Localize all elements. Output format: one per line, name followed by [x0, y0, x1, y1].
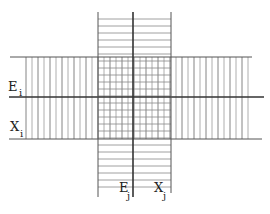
label-Ej-subscript: j	[126, 190, 130, 201]
label-Xi: X	[10, 119, 20, 134]
crossed-bands-diagram: E i X i E j X j	[0, 0, 270, 214]
vertical-band-horizontal-hatching	[98, 19, 171, 187]
label-Ei-subscript: i	[19, 87, 22, 98]
label-Xj-subscript: j	[162, 190, 166, 201]
label-Xi-subscript: i	[20, 128, 23, 139]
label-Ei: E	[8, 79, 18, 94]
horizontal-band-vertical-hatching	[26, 57, 248, 139]
